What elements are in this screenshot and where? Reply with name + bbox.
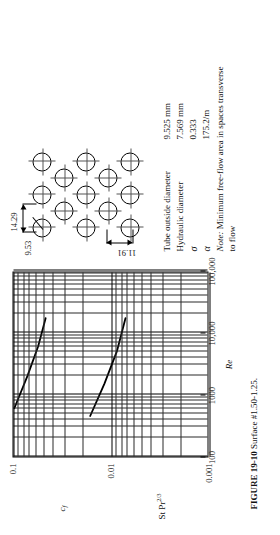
param-row-hydraulic-diameter: Hydraulic diameter 7.569 mm <box>173 51 186 251</box>
param-value-tube-outside-diameter: 9.525 mm <box>160 102 173 139</box>
grid-line-minor-h <box>35 272 36 456</box>
grid-line-major-h <box>13 272 14 456</box>
grid-line-minor-h <box>180 272 181 456</box>
param-name-sigma: σ <box>186 246 199 251</box>
param-name-tube-outside-diameter: Tube outside diameter <box>160 171 173 251</box>
grid-line-minor-h <box>115 272 116 456</box>
tube-centerline-v <box>94 210 121 211</box>
grid-line-minor-h <box>52 272 53 456</box>
parameter-note: Note: Minimum free-flow area in spaces t… <box>214 61 237 251</box>
param-row-sigma: σ 0.333 <box>186 51 199 251</box>
rotated-figure-container: 0.1 0.01 0.001 cf St Pr2/3 100100010,000… <box>0 0 280 535</box>
x-axis-title: Re <box>223 271 233 457</box>
longitudinal-pitch-ext-bottom <box>132 229 133 243</box>
grid-line-minor-h <box>28 272 29 456</box>
x-tick-3 <box>200 270 205 271</box>
x-tick-1 <box>200 394 205 395</box>
grid-line-minor-h <box>141 272 142 456</box>
tube-centerline-v <box>116 227 143 228</box>
grid-line-minor-h <box>126 272 127 456</box>
tube-centerline-v <box>94 177 121 178</box>
param-name-alpha: α <box>199 246 212 251</box>
tube-centerline-v <box>72 194 99 195</box>
x-tick-label-2: 10,000 <box>206 321 216 345</box>
tube-centerline-v <box>72 161 99 162</box>
y-tick-label-1: 0.01 <box>105 463 115 478</box>
tube-diameter-label: 9.53 <box>22 240 32 255</box>
x-tick-2 <box>200 332 205 333</box>
plot-area <box>12 271 208 457</box>
parameter-table: Tube outside diameter 9.525 mm Hydraulic… <box>160 51 212 251</box>
note-label: Note: <box>214 231 224 251</box>
grid-line-minor-h <box>121 272 122 456</box>
grid-line-major-h <box>111 272 112 456</box>
tube-centerline-v <box>50 210 77 211</box>
caption-title: FIGURE 19-10 <box>248 451 258 509</box>
note-text: Minimum free-flow area in spaces transve… <box>214 66 236 251</box>
figure-page: 0.1 0.01 0.001 cf St Pr2/3 100100010,000… <box>0 0 280 535</box>
transverse-pitch-ext-right <box>22 203 36 204</box>
grid-line-minor-h <box>133 272 134 456</box>
param-name-hydraulic-diameter: Hydraulic diameter <box>173 181 186 251</box>
param-value-sigma: 0.333 <box>186 119 199 139</box>
y-axis-title-stpr-main: St Pr <box>156 501 166 519</box>
x-tick-label-1: 1000 <box>206 386 216 403</box>
transverse-pitch-arrow-right <box>20 204 26 209</box>
transverse-pitch-label: 14.29 <box>8 212 18 231</box>
grid-line-minor-h <box>17 272 18 456</box>
tube-centerline-v <box>50 177 77 178</box>
longitudinal-pitch-arrow-down <box>127 240 132 246</box>
grid-line-minor-h <box>150 272 151 456</box>
figure-caption: FIGURE 19-10 Surface #1.50-1.25. <box>248 259 259 509</box>
y-axis-tick-labels: 0.1 0.01 0.001 <box>12 463 208 509</box>
tube-centerline-v <box>28 161 55 162</box>
tube-centerline-v <box>116 194 143 195</box>
grid-line-major-v <box>13 269 207 270</box>
tube-centerline-v <box>28 194 55 195</box>
x-tick-label-0: 100 <box>206 450 216 463</box>
y-axis-title-stpr-exp: 2/3 <box>154 493 161 501</box>
y-axis-title-cf-sub: f <box>61 505 68 507</box>
tube-centerline-v <box>72 227 99 228</box>
param-value-hydraulic-diameter: 7.569 mm <box>173 102 186 139</box>
grid-line-minor-h <box>23 272 24 456</box>
grid-line-minor-h <box>162 272 163 456</box>
y-axis-title-cf-main: c <box>56 507 66 511</box>
param-row-tube-outside-diameter: Tube outside diameter 9.525 mm <box>160 51 173 251</box>
x-tick-label-3: 100,000 <box>206 257 216 285</box>
y-tick-label-2: 0.001 <box>203 463 213 482</box>
param-value-alpha: 175.2/m <box>199 109 212 139</box>
grid-line-minor-h <box>43 272 44 456</box>
longitudinal-pitch-label: 11.91 <box>117 247 136 257</box>
grid-line-minor-h <box>64 272 65 456</box>
chart: 0.1 0.01 0.001 cf St Pr2/3 100100010,000… <box>4 259 242 509</box>
caption-text: Surface #1.50-1.25. <box>248 378 258 449</box>
tube-grid <box>32 141 142 237</box>
longitudinal-pitch-ext-top <box>106 229 107 243</box>
figure-19-10: 0.1 0.01 0.001 cf St Pr2/3 100100010,000… <box>0 0 280 535</box>
y-tick-label-0: 0.1 <box>7 463 17 474</box>
y-axis-title-cf: cf <box>56 505 68 511</box>
x-tick-0 <box>200 456 205 457</box>
tube-centerline-v <box>116 161 143 162</box>
tube-bank-diagram: 14.29 9.53 11.91 <box>6 133 156 251</box>
param-row-alpha: α 175.2/m <box>199 51 212 251</box>
transverse-pitch-ext-left <box>22 231 36 232</box>
grid-line-minor-h <box>82 272 83 456</box>
grid-line-major-h <box>209 272 210 456</box>
y-axis-title-stpr: St Pr2/3 <box>154 493 166 519</box>
